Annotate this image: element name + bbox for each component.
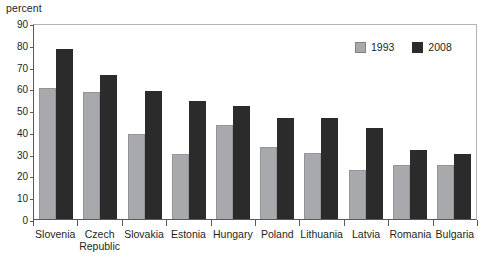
x-tick-label: Slovenia (33, 228, 77, 252)
bar (437, 165, 454, 219)
legend-item: 1993 (355, 41, 394, 53)
bar (83, 92, 100, 219)
x-tick-label: CzechRepublic (77, 228, 121, 252)
bar (172, 154, 189, 219)
x-tick-label: Poland (255, 228, 299, 252)
bar (321, 118, 338, 219)
bar (189, 101, 206, 219)
bar-group (167, 25, 211, 219)
bar (454, 154, 471, 219)
x-tick-mark (211, 220, 212, 226)
bar (366, 128, 383, 219)
x-tick-label: Slovakia (122, 228, 166, 252)
x-tick-mark (122, 220, 123, 226)
bar-group (211, 25, 255, 219)
bar (233, 106, 250, 219)
bar (304, 153, 321, 219)
bar (216, 125, 233, 219)
bar (277, 118, 294, 219)
legend-label: 2008 (428, 41, 451, 53)
bar-group (122, 25, 166, 219)
legend-swatch-icon (355, 42, 366, 53)
bar-group (432, 25, 476, 219)
legend-item: 2008 (412, 41, 451, 53)
x-axis-labels: SloveniaCzechRepublicSlovakiaEstoniaHung… (33, 228, 477, 252)
y-axis-title: percent (6, 2, 42, 14)
x-tick-label: Bulgaria (433, 228, 477, 252)
plot-area: 0102030405060708090 (33, 24, 477, 220)
x-tick-mark (344, 220, 345, 226)
x-tick-label: Romania (388, 228, 432, 252)
x-tick-label: Lithuania (299, 228, 343, 252)
x-tick-mark (33, 220, 34, 226)
x-tick-mark (433, 220, 434, 226)
bar (410, 150, 427, 219)
bar-group (78, 25, 122, 219)
bar (128, 134, 145, 219)
x-tick-label: Latvia (344, 228, 388, 252)
x-tick-mark (166, 220, 167, 226)
bar (393, 165, 410, 219)
x-tick-mark (388, 220, 389, 226)
bar (56, 49, 73, 219)
bar-group (34, 25, 78, 219)
bar-group (388, 25, 432, 219)
legend-swatch-icon (412, 42, 423, 53)
bar-group (343, 25, 387, 219)
x-tick-label: Estonia (166, 228, 210, 252)
bar-group (255, 25, 299, 219)
legend-label: 1993 (371, 41, 394, 53)
bar-chart: percent 0102030405060708090 SloveniaCzec… (0, 0, 484, 263)
bar (260, 147, 277, 219)
bar-group (299, 25, 343, 219)
bar (39, 88, 56, 219)
x-tick-mark (255, 220, 256, 226)
bar (349, 170, 366, 219)
x-tick-mark (77, 220, 78, 226)
bars-container (34, 25, 476, 219)
x-tick-mark (477, 220, 478, 226)
bar (100, 75, 117, 219)
chart-legend: 19932008 (355, 41, 452, 53)
bar (145, 91, 162, 219)
x-tick-label: Hungary (211, 228, 255, 252)
x-tick-mark (299, 220, 300, 226)
